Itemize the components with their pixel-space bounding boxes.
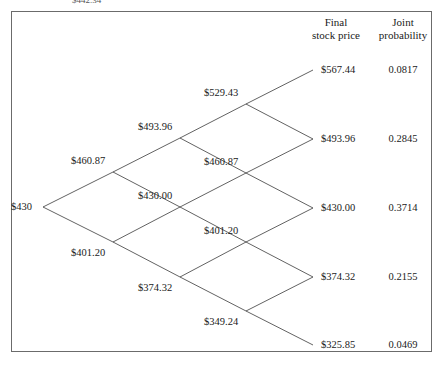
lattice-edge bbox=[246, 139, 313, 173]
lattice-edge bbox=[113, 242, 180, 277]
lattice-edge bbox=[246, 104, 313, 139]
node-value-label: $493.96 bbox=[138, 121, 172, 132]
lattice-edge bbox=[246, 173, 313, 208]
node-value-label: $374.32 bbox=[138, 282, 172, 293]
column-header-final-stock-price: Final stock price bbox=[305, 16, 367, 41]
lattice-edge bbox=[113, 138, 180, 172]
final-price-header-line-1: Final bbox=[305, 16, 367, 29]
joint-prob-header-line-2: probability bbox=[372, 29, 434, 42]
terminal-stock-price: $325.85 bbox=[321, 339, 355, 350]
lattice-edges bbox=[0, 0, 446, 367]
terminal-stock-price: $493.96 bbox=[321, 133, 355, 144]
terminal-joint-probability: 0.3714 bbox=[372, 202, 434, 213]
lattice-edge bbox=[180, 104, 246, 138]
terminal-stock-price: $567.44 bbox=[321, 64, 355, 75]
node-value-label: $430 bbox=[11, 201, 32, 212]
lattice-edge bbox=[246, 208, 313, 242]
lattice-edge bbox=[246, 242, 313, 277]
lattice-edge bbox=[43, 172, 113, 207]
figure-binomial-tree: $442.34 Final stock price Joint probabil… bbox=[0, 0, 446, 367]
node-value-label: $430.00 bbox=[138, 190, 172, 201]
lattice-edge bbox=[180, 173, 246, 207]
lattice-edge bbox=[43, 207, 113, 242]
terminal-stock-price: $374.32 bbox=[321, 271, 355, 282]
lattice-edge bbox=[180, 242, 246, 277]
lattice-edge bbox=[246, 277, 313, 311]
terminal-joint-probability: 0.0469 bbox=[372, 339, 434, 350]
final-price-header-line-2: stock price bbox=[305, 29, 367, 42]
column-header-joint-probability: Joint probability bbox=[372, 16, 434, 41]
joint-prob-header-line-1: Joint bbox=[372, 16, 434, 29]
terminal-joint-probability: 0.2845 bbox=[372, 133, 434, 144]
node-value-label: $401.20 bbox=[71, 247, 105, 258]
lattice-edge bbox=[180, 277, 246, 311]
lattice-edge bbox=[246, 311, 313, 345]
terminal-joint-probability: 0.0817 bbox=[372, 64, 434, 75]
terminal-stock-price: $430.00 bbox=[321, 202, 355, 213]
node-value-label: $401.20 bbox=[204, 225, 238, 236]
node-value-label: $349.24 bbox=[204, 316, 238, 327]
node-value-label: $460.87 bbox=[71, 155, 105, 166]
node-value-label: $529.43 bbox=[204, 87, 238, 98]
lattice-edge bbox=[246, 70, 313, 104]
terminal-joint-probability: 0.2155 bbox=[372, 271, 434, 282]
lattice-edge bbox=[113, 207, 180, 242]
node-value-label: $460.87 bbox=[204, 156, 238, 167]
